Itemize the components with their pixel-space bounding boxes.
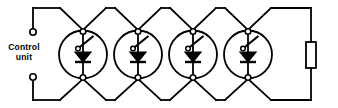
top-bus-v-1b [83, 8, 106, 30]
control-unit-bottom-terminal[interactable] [30, 74, 36, 80]
thyristor-2-gate-dot [131, 46, 136, 51]
top-bus-v-2 [115, 8, 138, 30]
thyristor-2-cathode-terminal-dot [135, 75, 141, 81]
bottom-bus-v-2b [138, 79, 161, 100]
bottom-bus-v-3 [170, 79, 193, 100]
control-unit-label-line1: Control [2, 42, 46, 52]
top-bus-v-2b [138, 8, 161, 30]
thyristor-1-triangle-icon [75, 52, 91, 62]
top-bus-v-4 [225, 8, 248, 30]
thyristor-1-anode-terminal-dot [80, 29, 86, 35]
thyristor-3-gate-dot [186, 46, 191, 51]
bottom-bus-wiring [33, 68, 311, 100]
thyristor-4-anode-terminal-dot [245, 29, 251, 35]
top-bus-wiring [33, 8, 311, 42]
thyristor-2-triangle-icon [130, 52, 146, 62]
control-unit-top-terminal[interactable] [30, 29, 36, 35]
thyristor-1[interactable] [59, 29, 107, 81]
control-unit-label: Control unit [2, 42, 46, 62]
bottom-bus-v-3b [193, 79, 216, 100]
thyristor-4[interactable] [224, 29, 272, 81]
bottom-bus-v-1 [60, 79, 83, 100]
circuit-diagram: Control unit [0, 0, 338, 108]
thyristor-3[interactable] [169, 29, 217, 81]
thyristor-3-cathode-terminal-dot [190, 75, 196, 81]
schematic-drawing [0, 0, 338, 108]
bottom-bus-v-1b [83, 79, 106, 100]
thyristor-4-triangle-icon [240, 52, 256, 62]
thyristor-2[interactable] [114, 29, 162, 81]
thyristor-3-anode-terminal-dot [190, 29, 196, 35]
thyristor-2-anode-terminal-dot [135, 29, 141, 35]
thyristor-4-gate-dot [241, 46, 246, 51]
bottom-bus-v-2 [115, 79, 138, 100]
thyristor-1-cathode-terminal-dot [80, 75, 86, 81]
top-bus-v-3b [193, 8, 216, 30]
control-unit-label-line2: unit [2, 52, 46, 62]
top-bus-v-3 [170, 8, 193, 30]
thyristor-1-gate-dot [76, 46, 81, 51]
bottom-bus-v-4 [225, 79, 248, 100]
thyristor-4-cathode-terminal-dot [245, 75, 251, 81]
load-resistor [306, 42, 316, 68]
bottom-bus-v-4b [248, 79, 271, 100]
thyristor-3-triangle-icon [185, 52, 201, 62]
top-bus-v-4b [248, 8, 271, 30]
top-bus-v-1 [60, 8, 83, 30]
